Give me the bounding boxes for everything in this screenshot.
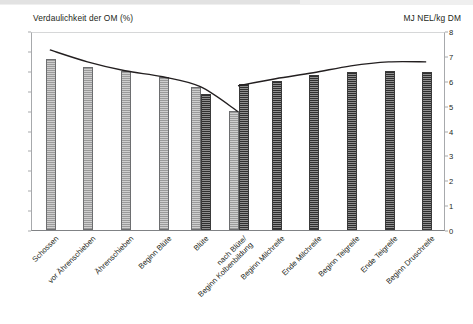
x-axis-label: Beginn Teigreife: [316, 234, 361, 279]
right-tick-mark: [445, 206, 448, 207]
x-axis-label: Ende Teigreife: [358, 234, 399, 275]
right-tick-label: 0: [449, 227, 471, 236]
right-tick-mark: [445, 231, 448, 232]
x-axis-label-line1: Ende Teigreife: [358, 234, 399, 275]
right-tick-mark: [445, 81, 448, 82]
right-tick-label: 1: [449, 202, 471, 211]
right-tick-label: 7: [449, 52, 471, 61]
x-axis-label: Blüte: [192, 234, 211, 253]
x-axis-label: Ährenschieben: [93, 234, 135, 276]
x-axis-label: Schossen: [30, 234, 60, 264]
right-tick-mark: [445, 181, 448, 182]
chart-figure: Verdaulichkeit der OM (%) MJ NEL/kg DM 0…: [0, 0, 473, 324]
right-tick-label: 2: [449, 177, 471, 186]
right-tick-label: 8: [449, 28, 471, 37]
right-tick-mark: [445, 106, 448, 107]
falling-curve: [50, 50, 238, 112]
right-axis-title: MJ NEL/kg DM: [403, 13, 461, 23]
right-tick-label: 3: [449, 152, 471, 161]
right-tick-mark: [445, 156, 448, 157]
line-series-layer: [31, 32, 445, 231]
right-tick-mark: [445, 56, 448, 57]
x-axis-label-line1: Ährenschieben: [93, 234, 135, 276]
x-axis-label-line1: Schossen: [30, 234, 60, 264]
x-axis-label-line1: Beginn Blüte: [136, 234, 173, 271]
right-tick-label: 6: [449, 77, 471, 86]
x-axis-label-line1: Blüte: [192, 234, 211, 253]
right-tick-label: 5: [449, 102, 471, 111]
right-tick-mark: [445, 131, 448, 132]
left-axis-title: Verdaulichkeit der OM (%): [33, 13, 133, 23]
rising-curve: [238, 62, 426, 86]
right-tick-label: 4: [449, 127, 471, 136]
x-axis-label: Beginn Blüte: [136, 234, 173, 271]
right-tick-mark: [445, 32, 448, 33]
x-axis-label-line1: Beginn Teigreife: [316, 234, 361, 279]
